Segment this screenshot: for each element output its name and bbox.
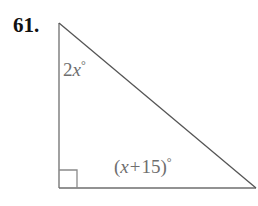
angle-bottom-constant: 15 — [141, 156, 160, 177]
angle-left-variable: x — [73, 59, 81, 80]
angle-label-bottom: (x+15)° — [114, 157, 172, 177]
angle-left-coefficient: 2 — [63, 59, 73, 80]
geometry-figure: 61. 2x° (x+15)° — [0, 0, 258, 206]
angle-bottom-operator: + — [129, 156, 142, 177]
degree-symbol-icon: ° — [81, 58, 86, 72]
angle-label-left: 2x° — [63, 60, 86, 80]
angle-bottom-variable: x — [120, 156, 128, 177]
degree-symbol-icon: ° — [167, 155, 172, 169]
right-angle-marker-icon — [59, 170, 77, 188]
